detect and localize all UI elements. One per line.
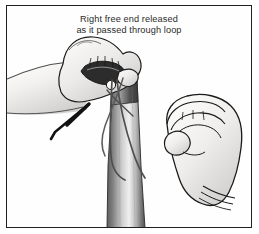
figure-frame: Right free end released as it passed thr… bbox=[6, 5, 252, 228]
right-thumb bbox=[164, 131, 190, 155]
vertical-tissue-band bbox=[107, 79, 145, 228]
right-hand-released bbox=[164, 94, 241, 210]
surgical-illustration bbox=[7, 6, 252, 228]
figure-root: Right free end released as it passed thr… bbox=[0, 0, 259, 234]
